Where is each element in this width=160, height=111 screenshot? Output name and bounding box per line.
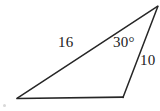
triangle-drawing xyxy=(0,0,160,111)
side-length-label-10: 10 xyxy=(140,53,155,68)
angle-measure-label-30-degrees: 30° xyxy=(113,35,135,50)
triangle-edge-base xyxy=(17,97,123,98)
scan-artifact-speck xyxy=(3,104,6,107)
geometry-figure: 16 30° 10 xyxy=(0,0,160,111)
side-length-label-16: 16 xyxy=(58,35,73,50)
triangle-edge-long-side xyxy=(17,6,158,98)
